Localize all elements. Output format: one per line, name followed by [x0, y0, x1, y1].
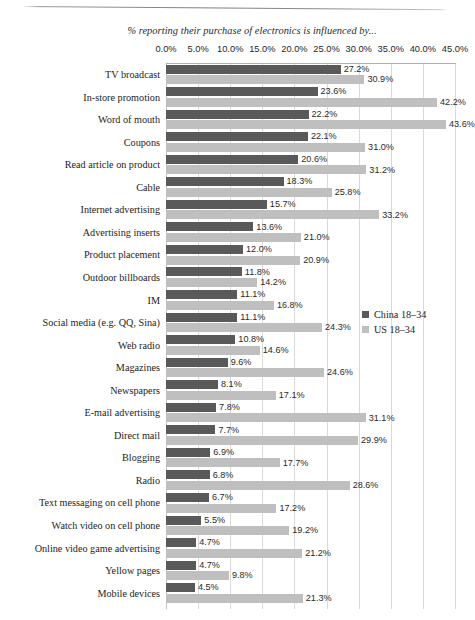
bar-us [166, 436, 358, 445]
bar-value-label: 28.6% [353, 481, 379, 490]
bar-china [166, 313, 237, 322]
bar-china [166, 110, 309, 119]
bar-value-label: 24.6% [327, 368, 353, 377]
bar-value-label: 43.6% [449, 120, 475, 129]
category-label: Outdoor billboards [0, 272, 160, 283]
category-label: Product placement [0, 249, 160, 260]
category-label: Text messaging on cell phone [0, 497, 160, 508]
bar-value-label: 20.9% [303, 256, 329, 265]
bar-us [166, 278, 257, 287]
bar-china [166, 561, 196, 570]
bar-us [166, 504, 276, 513]
bar-china [166, 538, 196, 547]
bar-value-label: 6.8% [213, 471, 234, 480]
bar-us [166, 368, 324, 377]
chart-legend: China 18–34 US 18–34 [362, 307, 458, 337]
legend-item-china: China 18–34 [362, 307, 458, 322]
bar-china [166, 448, 210, 457]
x-tick-label-6: 30.0% [345, 44, 371, 54]
legend-label-china: China 18–34 [374, 309, 426, 320]
bar-us [166, 120, 446, 129]
category-label: Radio [0, 475, 160, 486]
bar-china [166, 516, 201, 525]
category-label: Magazines [0, 362, 160, 373]
bar-value-label: 21.0% [304, 233, 330, 242]
bar-value-label: 21.3% [306, 594, 332, 603]
bar-value-label: 11.8% [245, 268, 270, 277]
category-label: Advertising inserts [0, 227, 160, 238]
bar-value-label: 16.8% [277, 301, 303, 310]
bar-value-label: 14.2% [260, 278, 286, 287]
bar-us [166, 75, 364, 84]
bar-us [166, 481, 350, 490]
bar-value-label: 31.2% [369, 166, 395, 175]
category-label: Word of mouth [0, 114, 160, 125]
category-label: Blogging [0, 452, 160, 463]
bar-china [166, 470, 210, 479]
bar-value-label: 13.6% [256, 223, 282, 232]
bar-china [166, 425, 215, 434]
bar-us [166, 346, 260, 355]
legend-swatch-china-icon [362, 311, 369, 318]
bar-us [166, 210, 379, 219]
bar-china [166, 155, 298, 164]
category-label: Read article on product [0, 159, 160, 170]
x-axis-tick-labels: 0.0%5.0%10.0%15.0%20.0%25.0%30.0%35.0%40… [166, 44, 455, 58]
bar-us [166, 526, 289, 535]
x-tick-label-9: 45.0% [442, 44, 468, 54]
bar-value-label: 17.1% [279, 391, 305, 400]
category-label: Social media (e.g. QQ, Sina) [0, 317, 160, 328]
bar-china [166, 380, 218, 389]
bar-us [166, 188, 332, 197]
category-label: Online video game advertising [0, 543, 160, 554]
bar-value-label: 15.7% [270, 200, 296, 209]
bar-value-label: 4.5% [198, 583, 219, 592]
bar-value-label: 6.7% [212, 493, 233, 502]
bar-value-label: 8.1% [221, 380, 242, 389]
category-label: Coupons [0, 137, 160, 148]
bar-value-label: 11.1% [240, 290, 265, 299]
x-tick-label-5: 25.0% [313, 44, 339, 54]
bar-value-label: 27.2% [344, 65, 370, 74]
bar-value-label: 4.7% [199, 561, 220, 570]
x-tick-label-1: 5.0% [188, 44, 209, 54]
bar-value-label: 7.7% [218, 426, 239, 435]
bar-us [166, 301, 274, 310]
bar-china [166, 132, 308, 141]
bar-value-label: 22.2% [312, 110, 338, 119]
bar-value-label: 7.8% [219, 403, 240, 412]
bar-value-label: 31.1% [369, 414, 395, 423]
bar-china [166, 200, 267, 209]
bar-us [166, 323, 322, 332]
x-tick-label-7: 35.0% [378, 44, 404, 54]
category-label: TV broadcast [0, 69, 160, 80]
bar-value-label: 10.8% [238, 335, 264, 344]
legend-swatch-us-icon [362, 326, 369, 333]
bar-us [166, 571, 229, 580]
x-tick-label-4: 20.0% [281, 44, 307, 54]
bar-china [166, 358, 228, 367]
bar-value-label: 17.7% [283, 459, 309, 468]
bar-value-label: 22.1% [311, 132, 337, 141]
bar-china [166, 290, 237, 299]
bar-value-label: 12.0% [246, 245, 272, 254]
bar-us [166, 549, 302, 558]
bar-china [166, 222, 253, 231]
bar-value-label: 31.0% [368, 143, 394, 152]
bar-value-label: 25.8% [335, 188, 361, 197]
x-tick-label-8: 40.0% [410, 44, 436, 54]
category-label: IM [0, 295, 160, 306]
legend-item-us: US 18–34 [362, 322, 458, 337]
bar-us [166, 413, 366, 422]
bar-value-label: 23.6% [321, 87, 347, 96]
category-label: Cable [0, 182, 160, 193]
bar-china [166, 583, 195, 592]
bar-china [166, 65, 341, 74]
bar-value-label: 30.9% [367, 75, 393, 84]
category-label: Watch video on cell phone [0, 520, 160, 531]
category-label: In-store promotion [0, 92, 160, 103]
bar-value-label: 14.6% [263, 346, 289, 355]
bar-us [166, 233, 301, 242]
bar-value-label: 29.9% [361, 436, 387, 445]
